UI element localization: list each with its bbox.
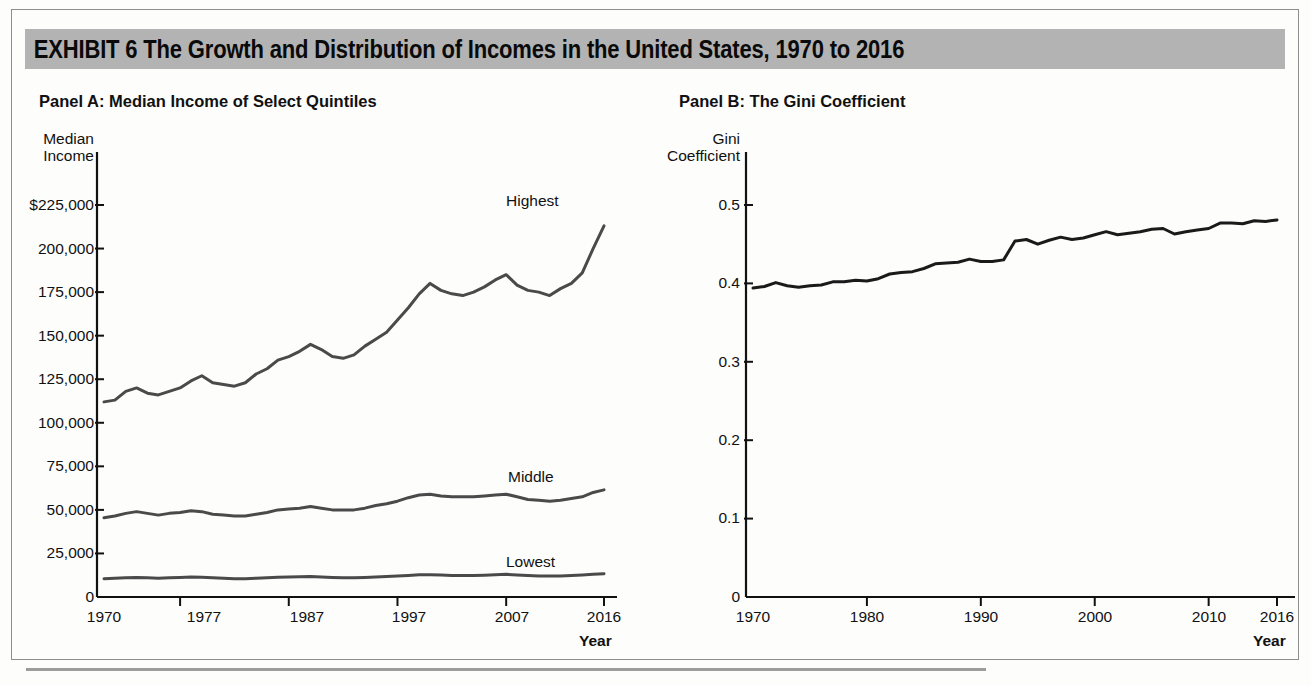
panel-b: Gini Coefficient 0.5 0.4 0.3 0.2 0.1 0 1… [640,0,1311,685]
panel-a-series-lines [104,226,604,579]
panel-a-plot [0,0,660,685]
panel-a: Median Income $225,000 200,000 175,000 1… [0,0,660,685]
panel-b-x-ticks [867,597,1277,606]
panel-b-series-lines [753,220,1277,288]
exhibit-figure: EXHIBIT 6 The Growth and Distribution of… [0,0,1311,685]
panel-b-plot [640,0,1311,685]
panel-b-axes [746,152,1295,597]
panel-a-axes [97,152,617,597]
panel-a-x-ticks [180,597,604,606]
bottom-rule [26,668,986,671]
